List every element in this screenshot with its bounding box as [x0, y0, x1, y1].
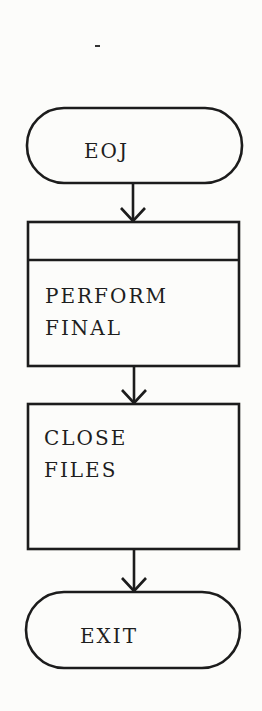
perform-final-line-2: FINAL — [45, 313, 122, 343]
arrow-perform-to-close — [122, 366, 146, 403]
stray-mark — [95, 45, 100, 47]
exit-label: EXIT — [80, 621, 138, 651]
arrow-eoj-to-perform — [121, 183, 145, 221]
perform-final-line-1: PERFORM — [45, 281, 168, 311]
flowchart-canvas — [0, 0, 262, 711]
eoj-terminator-shape — [27, 108, 242, 183]
eoj-label: EOJ — [84, 136, 129, 166]
close-files-line-2: FILES — [44, 455, 117, 485]
arrow-close-to-exit — [122, 549, 146, 591]
close-files-line-1: CLOSE — [44, 423, 127, 453]
